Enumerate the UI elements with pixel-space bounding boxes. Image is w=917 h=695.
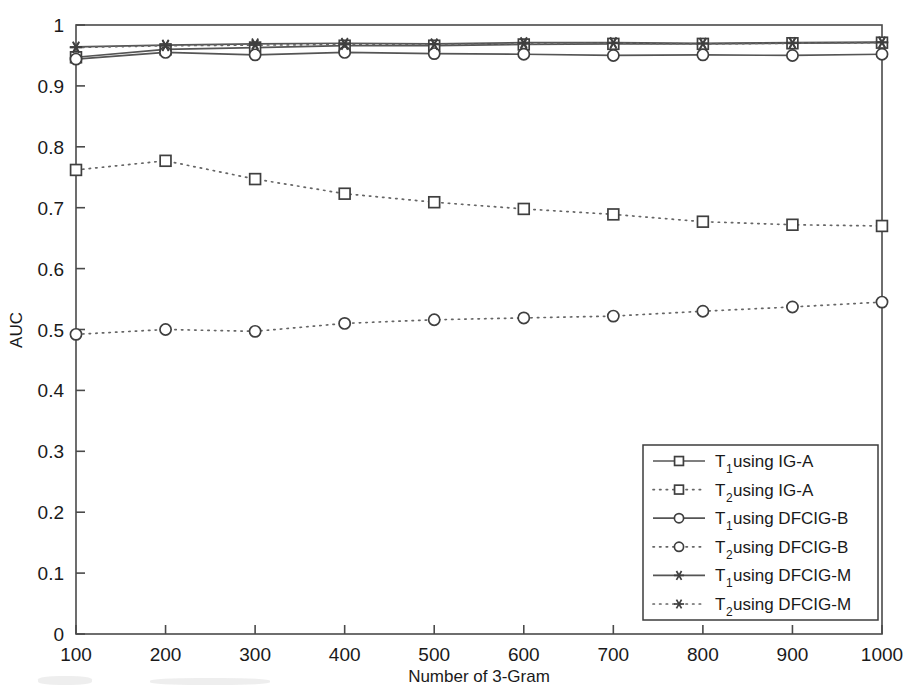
x-tick-label: 400 [329, 644, 361, 665]
legend-label: T [715, 452, 725, 471]
marker-square [71, 165, 82, 176]
marker-circle [429, 48, 440, 59]
chart-legend[interactable]: T1 using IG-AT2 using IG-AT1 using DFCIG… [643, 445, 878, 620]
chart-figure: 00.10.20.30.40.50.60.70.80.91 1002003004… [0, 0, 917, 695]
y-tick-label: 0.3 [38, 441, 64, 462]
series-layer [70, 37, 888, 340]
y-tick-label: 0.6 [38, 259, 64, 280]
x-tick-label: 1000 [861, 644, 903, 665]
x-tick-label: 700 [597, 644, 629, 665]
marker-square [250, 174, 261, 185]
marker-circle [250, 49, 261, 60]
legend-box [643, 445, 878, 620]
marker-circle [160, 324, 171, 335]
legend-label: T [715, 538, 725, 557]
scan-artifact [150, 678, 270, 685]
legend-label-subscript: 2 [726, 491, 733, 505]
marker-square [787, 219, 798, 230]
y-tick-label: 0.7 [38, 198, 64, 219]
series-path [76, 161, 882, 226]
y-tick-label: 0.9 [38, 76, 64, 97]
marker-square [518, 204, 529, 215]
marker-circle [674, 514, 683, 523]
marker-circle [70, 54, 81, 65]
marker-circle [518, 312, 529, 323]
marker-circle [518, 49, 529, 60]
legend-label-subscript: 2 [726, 548, 733, 562]
marker-square [160, 155, 171, 166]
legend-label: T [715, 481, 725, 500]
series-3 [70, 296, 887, 339]
series-0 [71, 37, 888, 62]
marker-circle [160, 47, 171, 58]
y-tick-label: 0.4 [38, 380, 65, 401]
legend-label-rest: using IG-A [733, 481, 814, 500]
marker-circle [608, 311, 619, 322]
legend-label: T [715, 566, 725, 585]
x-tick-label: 100 [60, 644, 92, 665]
y-tick-label: 0.1 [38, 563, 64, 584]
y-tick-label: 0.2 [38, 502, 64, 523]
legend-label-rest: using IG-A [733, 452, 814, 471]
marker-circle [339, 318, 350, 329]
x-tick-label: 800 [687, 644, 719, 665]
legend-label: T [715, 595, 725, 614]
marker-circle [429, 314, 440, 325]
y-tick-label: 1 [53, 15, 64, 36]
x-tick-label: 200 [150, 644, 182, 665]
legend-label-subscript: 1 [726, 576, 733, 590]
x-tick-label: 600 [508, 644, 540, 665]
x-tick-label: 900 [777, 644, 809, 665]
marker-square [675, 457, 684, 466]
legend-label: T [715, 509, 725, 528]
marker-circle [697, 306, 708, 317]
legend-label-subscript: 2 [726, 605, 733, 619]
marker-circle [70, 329, 81, 340]
legend-label-rest: using DFCIG-B [733, 509, 848, 528]
series-1 [71, 155, 888, 231]
marker-circle [876, 296, 887, 307]
marker-square [697, 216, 708, 227]
marker-circle [876, 49, 887, 60]
marker-circle [608, 50, 619, 61]
y-axis-title: AUC [7, 312, 26, 348]
x-axis-title: Number of 3-Gram [408, 667, 550, 686]
series-path [76, 52, 882, 59]
marker-circle [697, 49, 708, 60]
marker-square [877, 221, 888, 232]
x-tick-label: 300 [239, 644, 271, 665]
marker-square [429, 197, 440, 208]
marker-circle [674, 542, 683, 551]
series-path [76, 302, 882, 334]
legend-label-subscript: 1 [726, 519, 733, 533]
auc-line-chart: 00.10.20.30.40.50.60.70.80.91 1002003004… [0, 0, 917, 695]
x-tick-label: 500 [418, 644, 450, 665]
marker-circle [787, 301, 798, 312]
x-axis-ticks: 1002003004005006007008009001000 [60, 625, 903, 665]
marker-square [675, 485, 684, 494]
y-tick-label: 0.5 [38, 320, 64, 341]
legend-label-subscript: 1 [726, 462, 733, 476]
marker-circle [787, 50, 798, 61]
legend-label-rest: using DFCIG-B [733, 538, 848, 557]
marker-circle [250, 326, 261, 337]
scan-artifact [38, 676, 92, 685]
legend-label-rest: using DFCIG-M [733, 566, 851, 585]
y-tick-label: 0 [53, 624, 64, 645]
legend-label-rest: using DFCIG-M [733, 595, 851, 614]
marker-circle [339, 47, 350, 58]
marker-square [339, 188, 350, 199]
y-tick-label: 0.8 [38, 137, 64, 158]
marker-square [608, 209, 619, 220]
